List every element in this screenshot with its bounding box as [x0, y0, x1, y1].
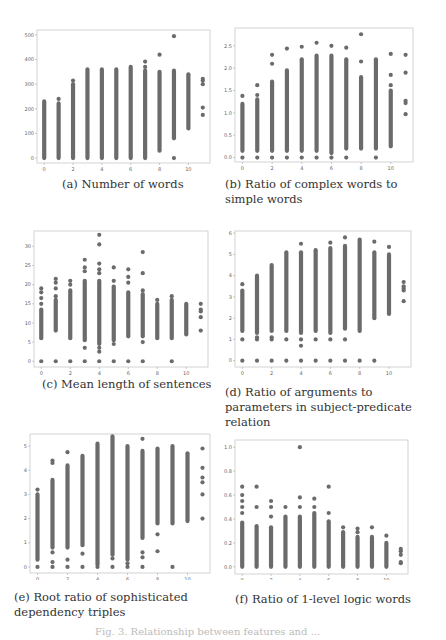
svg-text:6: 6	[330, 165, 333, 171]
svg-text:6: 6	[127, 370, 130, 375]
svg-text:300: 300	[24, 81, 34, 87]
chart-a: 02468100100200300400500 (a) Number of wo…	[0, 0, 223, 215]
svg-text:2.0: 2.0	[224, 65, 232, 71]
svg-text:10: 10	[183, 370, 189, 375]
svg-text:2.5: 2.5	[224, 43, 232, 49]
svg-text:4: 4	[96, 576, 99, 580]
svg-text:4: 4	[98, 370, 101, 375]
scatter-plot-a: 02468100100200300400500	[0, 0, 223, 175]
svg-text:2: 2	[69, 370, 72, 375]
svg-text:10: 10	[185, 166, 191, 172]
chart-f: 02468100.00.20.40.60.81.0 (f) Ratio of 1…	[223, 420, 446, 625]
svg-text:0: 0	[28, 358, 31, 364]
svg-text:1.5: 1.5	[224, 87, 232, 93]
svg-text:0: 0	[241, 370, 244, 375]
caption-b: (b) Ratio of complex words to simple wor…	[225, 177, 425, 207]
svg-text:5: 5	[28, 339, 31, 345]
svg-text:1: 1	[24, 539, 27, 545]
svg-text:8: 8	[158, 166, 161, 172]
svg-text:2: 2	[269, 577, 272, 580]
caption-f: (f) Ratio of 1-level logic words	[235, 592, 435, 607]
svg-text:2: 2	[229, 315, 232, 321]
svg-text:3: 3	[229, 294, 232, 300]
svg-text:0.8: 0.8	[224, 468, 232, 474]
svg-text:8: 8	[156, 370, 159, 375]
svg-text:8: 8	[156, 576, 159, 580]
svg-text:10: 10	[388, 165, 394, 171]
svg-text:4: 4	[298, 577, 301, 580]
svg-text:5: 5	[229, 251, 232, 257]
svg-text:0.6: 0.6	[224, 492, 232, 498]
svg-text:4: 4	[24, 467, 27, 473]
svg-text:0.0: 0.0	[224, 564, 232, 570]
svg-text:3: 3	[24, 491, 27, 497]
svg-text:0: 0	[229, 357, 232, 363]
svg-text:1: 1	[229, 336, 232, 342]
chart-c: 0246810051015202530 (c) Mean length of s…	[0, 215, 223, 420]
svg-text:0: 0	[31, 155, 34, 161]
svg-text:10: 10	[184, 576, 190, 580]
svg-text:0: 0	[241, 577, 244, 580]
caption-a: (a) Number of words	[62, 177, 212, 192]
svg-text:0.2: 0.2	[224, 540, 232, 546]
svg-text:2: 2	[270, 370, 273, 375]
svg-text:6: 6	[229, 230, 232, 236]
caption-e: (e) Root ratio of sophisticated dependen…	[14, 590, 219, 620]
svg-text:0: 0	[241, 165, 244, 171]
svg-text:0: 0	[43, 166, 46, 172]
svg-text:200: 200	[24, 106, 34, 112]
svg-text:20: 20	[25, 281, 31, 287]
svg-text:8: 8	[356, 577, 359, 580]
svg-text:5: 5	[24, 443, 27, 449]
svg-text:100: 100	[24, 130, 34, 136]
svg-text:500: 500	[24, 32, 34, 38]
scatter-plot-f: 02468100.00.20.40.60.81.0	[223, 420, 446, 580]
svg-text:400: 400	[24, 56, 34, 62]
svg-text:2: 2	[66, 576, 69, 580]
svg-text:0.0: 0.0	[224, 154, 232, 160]
svg-text:25: 25	[25, 262, 31, 268]
svg-text:6: 6	[327, 577, 330, 580]
svg-text:2: 2	[71, 166, 74, 172]
svg-text:6: 6	[126, 576, 129, 580]
scatter-plot-c: 0246810051015202530	[0, 215, 223, 375]
svg-text:2: 2	[24, 515, 27, 521]
svg-text:10: 10	[383, 577, 389, 580]
svg-text:6: 6	[129, 166, 132, 172]
svg-text:15: 15	[25, 300, 31, 306]
svg-text:4: 4	[299, 370, 302, 375]
svg-text:0.4: 0.4	[224, 516, 232, 522]
scatter-plot-b: 02468100.00.51.01.52.02.5	[223, 0, 446, 175]
svg-text:8: 8	[358, 370, 361, 375]
svg-text:0.5: 0.5	[224, 132, 232, 138]
scatter-plot-e: 0246810012345	[0, 420, 223, 580]
svg-text:4: 4	[100, 166, 103, 172]
svg-text:30: 30	[25, 243, 31, 249]
svg-text:0: 0	[36, 576, 39, 580]
svg-text:0: 0	[24, 564, 27, 570]
svg-text:1.0: 1.0	[224, 444, 232, 450]
scatter-plot-d: 02468100123456	[223, 215, 446, 375]
svg-text:6: 6	[329, 370, 332, 375]
svg-text:1.0: 1.0	[224, 110, 232, 116]
svg-text:4: 4	[229, 272, 232, 278]
chart-b: 02468100.00.51.01.52.02.5 (b) Ratio of c…	[223, 0, 446, 215]
figure-caption: Fig. 3. Relationship between features an…	[95, 626, 320, 637]
caption-c: (c) Mean length of sentences	[42, 377, 222, 392]
chart-e: 0246810012345 (e) Root ratio of sophisti…	[0, 420, 223, 625]
svg-text:2: 2	[270, 165, 273, 171]
svg-text:10: 10	[386, 370, 392, 375]
svg-text:8: 8	[359, 165, 362, 171]
svg-text:10: 10	[25, 320, 31, 326]
svg-text:4: 4	[300, 165, 303, 171]
chart-d: 02468100123456 (d) Ratio of arguments to…	[223, 215, 446, 420]
svg-text:0: 0	[40, 370, 43, 375]
